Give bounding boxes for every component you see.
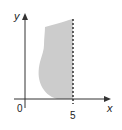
y-axis-arrow-icon [22,13,28,20]
y-axis-label: y [13,10,21,22]
shaded-region [39,19,73,99]
boundary-value-label: 5 [70,110,76,121]
x-axis-label: x [106,102,113,114]
coordinate-diagram: y x 0 5 [0,0,122,130]
origin-label: 0 [17,103,23,114]
